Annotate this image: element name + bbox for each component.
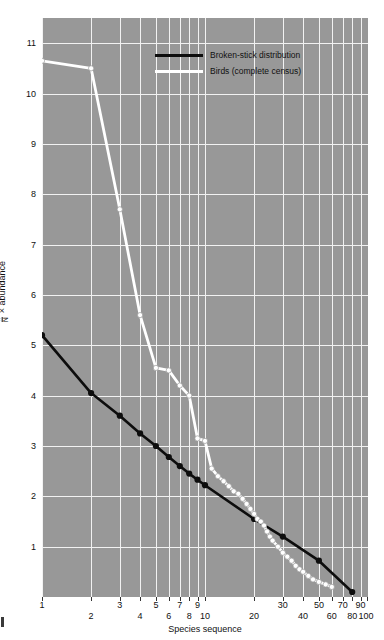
y-tick-label: 6 bbox=[31, 290, 36, 300]
x-tick-mark bbox=[140, 597, 141, 601]
data-point bbox=[289, 558, 294, 563]
x-tick-label: 5 bbox=[153, 600, 158, 610]
data-point bbox=[202, 482, 208, 488]
x-tick-mark bbox=[205, 597, 206, 601]
x-tick-label: 60 bbox=[327, 611, 337, 621]
data-point bbox=[166, 368, 171, 373]
data-point bbox=[244, 501, 249, 506]
data-point bbox=[177, 463, 183, 469]
data-point bbox=[323, 582, 328, 587]
x-tick-mark bbox=[91, 597, 92, 601]
y-tick-label: 9 bbox=[31, 139, 36, 149]
data-point bbox=[236, 491, 241, 496]
data-point bbox=[153, 443, 159, 449]
data-point bbox=[166, 454, 172, 460]
x-tick-label: 3 bbox=[117, 600, 122, 610]
data-point bbox=[349, 589, 355, 595]
data-point bbox=[221, 479, 226, 484]
y-tick-label: 4 bbox=[31, 391, 36, 401]
x-tick-mark bbox=[169, 597, 170, 601]
data-point bbox=[264, 529, 269, 534]
y-axis-label: n N × abundance bbox=[0, 261, 9, 323]
y-tick-label: 11 bbox=[27, 38, 36, 48]
data-point bbox=[194, 477, 200, 483]
plot-area bbox=[42, 18, 368, 597]
data-point bbox=[187, 393, 192, 398]
y-axis-label-fraction: n N bbox=[0, 316, 9, 323]
legend-item: Birds (complete census) bbox=[155, 63, 301, 79]
x-tick-label: 10 bbox=[200, 611, 210, 621]
x-tick-label: 1 bbox=[39, 600, 44, 610]
data-point bbox=[177, 383, 182, 388]
data-point bbox=[117, 413, 123, 419]
data-point bbox=[240, 496, 245, 501]
legend-label: Broken-stick distribution bbox=[210, 50, 300, 60]
data-point bbox=[285, 554, 290, 559]
series-line bbox=[42, 61, 332, 587]
data-point bbox=[195, 436, 200, 441]
data-point bbox=[88, 390, 94, 396]
data-point bbox=[215, 474, 220, 479]
x-tick-mark bbox=[189, 597, 190, 601]
legend-swatch bbox=[155, 70, 203, 73]
x-tick-label: 4 bbox=[138, 611, 143, 621]
series-layer bbox=[42, 18, 368, 597]
page-edge-artifact bbox=[1, 617, 4, 627]
y-tick-label: 10 bbox=[26, 89, 36, 99]
data-point bbox=[89, 66, 94, 71]
data-point bbox=[280, 550, 285, 555]
data-point bbox=[226, 484, 231, 489]
data-point bbox=[301, 569, 306, 574]
figure-canvas: 1234567891011 n N × abundance Broken-sti… bbox=[0, 0, 384, 640]
fraction-denominator: N bbox=[3, 316, 10, 323]
data-point bbox=[137, 430, 143, 436]
series-line bbox=[42, 335, 352, 592]
x-tick-label: 40 bbox=[298, 611, 308, 621]
y-axis-label-suffix: × abundance bbox=[0, 261, 7, 313]
data-point bbox=[280, 534, 286, 540]
y-tick-label: 2 bbox=[31, 491, 36, 501]
data-point bbox=[316, 579, 321, 584]
data-point bbox=[270, 538, 275, 543]
data-point bbox=[310, 577, 315, 582]
x-tick-label: 50 bbox=[314, 600, 324, 610]
data-point bbox=[252, 511, 257, 516]
data-point bbox=[209, 466, 214, 471]
y-tick-label: 5 bbox=[31, 340, 36, 350]
x-tick-mark bbox=[367, 597, 368, 601]
x-tick-label: 7 bbox=[177, 600, 182, 610]
data-point bbox=[316, 558, 322, 564]
x-tick-mark bbox=[303, 597, 304, 601]
x-tick-label: 100 bbox=[358, 611, 373, 621]
x-tick-label: 90 bbox=[355, 600, 365, 610]
data-point bbox=[306, 573, 311, 578]
x-tick-label: 6 bbox=[166, 611, 171, 621]
x-tick-mark bbox=[352, 597, 353, 601]
series-birds bbox=[42, 58, 334, 589]
x-tick-label: 8 bbox=[187, 611, 192, 621]
x-tick-mark bbox=[332, 597, 333, 601]
legend-swatch bbox=[155, 54, 203, 57]
series-broken-stick bbox=[42, 332, 355, 595]
x-tick-label: 20 bbox=[249, 611, 259, 621]
y-tick-label: 7 bbox=[31, 240, 36, 250]
data-point bbox=[275, 544, 280, 549]
y-tick-label: 3 bbox=[31, 441, 36, 451]
data-point bbox=[202, 438, 207, 443]
y-tick-label: 8 bbox=[31, 189, 36, 199]
x-tick-label: 30 bbox=[278, 600, 288, 610]
data-point bbox=[42, 58, 45, 63]
data-point bbox=[186, 471, 192, 477]
data-point bbox=[329, 584, 334, 589]
x-tick-label: 2 bbox=[89, 611, 94, 621]
x-axis-label: Species sequence bbox=[168, 624, 242, 634]
x-tick-label: 9 bbox=[195, 600, 200, 610]
chart-legend: Broken-stick distributionBirds (complete… bbox=[155, 47, 301, 79]
x-tick-mark bbox=[254, 597, 255, 601]
legend-label: Birds (complete census) bbox=[210, 66, 301, 76]
data-point bbox=[117, 207, 122, 212]
data-point bbox=[153, 365, 158, 370]
y-tick-label: 1 bbox=[31, 542, 36, 552]
data-point bbox=[138, 313, 143, 318]
data-point bbox=[248, 506, 253, 511]
